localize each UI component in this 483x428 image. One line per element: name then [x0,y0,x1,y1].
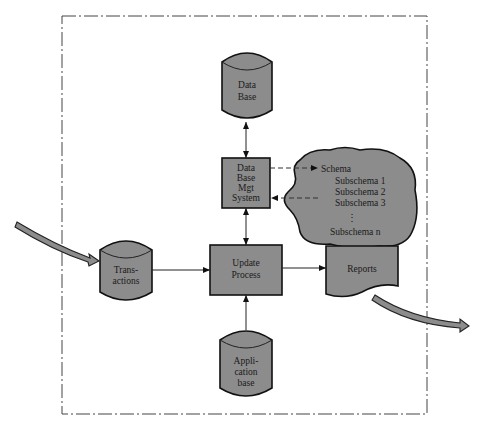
database-label-2: Base [238,92,256,102]
transactions-node: Trans- actions [100,241,152,300]
reports-node: Reports [326,246,398,297]
subschema-1-label: Subschema 1 [335,176,386,186]
schema-cloud-node: Schema Subschema 1 Subschema 2 Subschema… [284,148,416,248]
dbms-node: Data Base Mgt System [222,158,270,208]
subschema-n-label: Subschema n [330,227,381,237]
appbase-label-2: cation [234,367,257,377]
schema-label: Schema [321,164,352,174]
output-flow-arrow [372,295,469,332]
appbase-label-1: Appli- [234,356,259,366]
subschema-3-label: Subschema 3 [335,198,386,208]
input-flow-arrow [15,222,99,266]
transactions-label-2: actions [113,276,140,286]
dbms-label-2: Base [237,173,255,183]
update-label-2: Process [231,270,260,280]
transactions-label-1: Trans- [114,265,138,275]
appbase-label-3: base [238,378,255,388]
subschema-2-label: Subschema 2 [335,187,386,197]
application-base-node: Appli- cation base [220,331,272,396]
reports-label: Reports [347,264,377,274]
dbms-label-3: Mgt [238,183,254,193]
update-process-node: Update Process [210,245,282,295]
dbms-label-4: System [232,193,261,203]
dbms-label-1: Data [237,163,256,173]
database-node: Data Base [222,53,272,118]
update-label-1: Update [232,258,259,268]
system-diagram: Data Base Data Base Mgt System Schema Su… [0,0,483,428]
ellipsis-label: ⋮ [347,213,357,223]
database-label-1: Data [238,80,257,90]
